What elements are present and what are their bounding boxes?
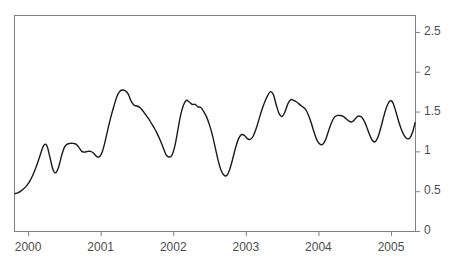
x-axis-tick-label: 2003 [216, 241, 276, 253]
x-axis-tick-label: 2002 [143, 241, 203, 253]
x-axis-tick-label: 2005 [361, 241, 421, 253]
y-axis-tick-label: 2.5 [424, 25, 441, 37]
x-axis-tick-label: 2001 [71, 241, 131, 253]
y-axis-tick-label: 0 [424, 224, 431, 236]
y-axis-tick-label: 2 [424, 65, 431, 77]
chart-plot-area [0, 0, 458, 265]
chart-container: 00.511.522.5 200020012002200320042005 [0, 0, 458, 265]
y-axis-tick-label: 1.5 [424, 105, 441, 117]
x-axis-tick-label: 2004 [288, 241, 348, 253]
x-axis-tick-label: 2000 [0, 241, 58, 253]
series-line-1 [15, 90, 415, 194]
plot-frame [15, 16, 416, 232]
y-axis-tick-label: 0.5 [424, 184, 441, 196]
y-axis-tick-label: 1 [424, 144, 431, 156]
